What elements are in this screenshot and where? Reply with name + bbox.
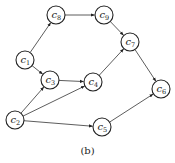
edge-c1-to-c8 — [30, 23, 51, 53]
node-c1: c1 — [16, 51, 34, 69]
edge-c2-to-c3 — [21, 87, 44, 113]
nodes-layer: c1c2c3c4c5c6c7c8c9 — [6, 6, 170, 136]
node-c9: c9 — [95, 6, 113, 24]
graph-canvas: c1c2c3c4c5c6c7c8c9 — [0, 0, 175, 163]
node-c6: c6 — [152, 80, 170, 98]
edge-c3-to-c4 — [59, 80, 84, 81]
edge-c2-to-c4 — [23, 86, 84, 116]
edges-layer — [21, 15, 156, 126]
figure-caption: (b) — [0, 145, 175, 156]
node-c3: c3 — [41, 71, 59, 89]
edge-c5-to-c6 — [110, 94, 153, 122]
edge-c4-to-c7 — [99, 49, 123, 75]
node-c2: c2 — [6, 111, 24, 129]
node-c7: c7 — [121, 33, 139, 51]
edge-c9-to-c7 — [110, 21, 123, 35]
edge-c1-to-c3 — [32, 66, 43, 74]
node-c8: c8 — [47, 6, 65, 24]
node-c4: c4 — [84, 73, 102, 91]
edge-c7-to-c6 — [135, 50, 156, 82]
edge-c2-to-c5 — [24, 121, 93, 127]
node-c5: c5 — [93, 118, 111, 136]
dependency-graph-diagram: c1c2c3c4c5c6c7c8c9 (b) — [0, 0, 175, 163]
